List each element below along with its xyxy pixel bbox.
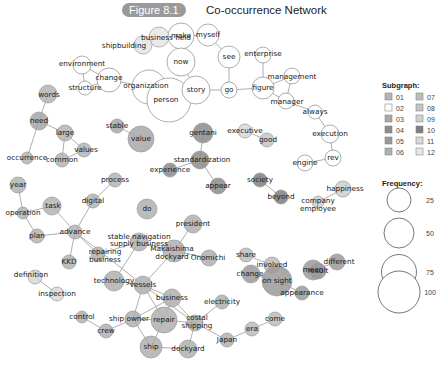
subgraph-label: 04	[396, 127, 404, 134]
node-label: management	[268, 72, 317, 81]
node-label: Japan	[216, 335, 237, 344]
frequency-label: 50	[426, 230, 434, 237]
subgraph-swatch-12	[416, 148, 423, 155]
subgraph-swatch-06	[385, 148, 392, 155]
node-label: year	[10, 180, 26, 189]
node-label: person	[153, 95, 178, 104]
node-label: KKD	[61, 257, 77, 266]
subgraph-label: 09	[427, 116, 435, 123]
node-label: execution	[312, 129, 348, 138]
node-label: shipping	[181, 321, 212, 330]
node-label: control	[69, 312, 94, 321]
network-labels: business fieldshipbuildingmakemyselfnows…	[5, 30, 363, 353]
node-label: value	[131, 134, 151, 143]
frequency-circle-100	[378, 271, 420, 313]
node-label: involved	[257, 260, 288, 269]
node-label: ship	[143, 342, 158, 351]
node-label: values	[74, 145, 98, 154]
subgraph-swatch-10	[416, 126, 423, 133]
node-label: repair	[153, 315, 174, 324]
node-label: society	[247, 175, 274, 184]
subgraph-swatch-02	[385, 104, 392, 111]
node-label: plan	[29, 231, 45, 240]
node-label: environment	[59, 59, 106, 68]
subgraph-legend-items: 010203040506070809101112	[385, 93, 435, 156]
node-label: digital	[82, 196, 105, 205]
subgraph-label: 05	[396, 138, 404, 145]
frequency-legend-title: Frequency:	[382, 179, 422, 188]
node-label: story	[187, 85, 206, 94]
node-label: rev	[327, 153, 339, 162]
node-label: task	[45, 201, 61, 210]
node-label: happiness	[326, 184, 363, 193]
node-label: appearance	[280, 288, 324, 297]
subgraph-swatch-01	[385, 93, 392, 100]
node-label: come	[265, 314, 286, 323]
node-label: shipbuilding	[102, 41, 146, 50]
node-label: change	[237, 269, 264, 278]
node-label: appear	[205, 181, 231, 190]
node-label: result	[308, 266, 329, 275]
node-label: always	[302, 107, 327, 116]
node-label: business	[156, 293, 188, 302]
frequency-circle-25	[387, 188, 411, 212]
subgraph-swatch-11	[416, 137, 423, 144]
node-label: president	[176, 219, 211, 228]
node-label: myself	[196, 30, 221, 39]
node-label: common	[46, 155, 78, 164]
node-label: dockyard	[155, 252, 188, 261]
node-label: need	[30, 116, 48, 125]
node-label: occurrence	[7, 153, 48, 162]
subgraph-label: 08	[427, 105, 435, 112]
node-label: experience	[150, 165, 191, 174]
subgraph-label: 10	[427, 127, 435, 134]
subgraph-label: 03	[396, 116, 404, 123]
subgraph-label: 11	[427, 138, 434, 145]
node-label: operation	[5, 208, 40, 217]
frequency-legend-items: 255075100	[378, 188, 436, 313]
node-label: era	[246, 324, 258, 333]
node-label: organization	[123, 81, 168, 90]
subgraph-swatch-04	[385, 126, 392, 133]
subgraph-label: 01	[396, 94, 404, 101]
node-label: crew	[97, 326, 114, 335]
frequency-circle-50	[384, 218, 414, 248]
node-label: process	[101, 175, 129, 184]
subgraph-label: 02	[396, 105, 404, 112]
node-label: change	[96, 73, 123, 82]
frequency-label: 100	[424, 289, 436, 296]
node-label: different	[324, 257, 355, 266]
node-label: share	[236, 250, 257, 259]
subgraph-swatch-03	[385, 115, 392, 122]
node-label: good	[259, 135, 277, 144]
node-label: go	[224, 85, 234, 94]
subgraph-label: 06	[396, 149, 404, 156]
node-label: words	[38, 90, 60, 99]
node-label: enterprise	[244, 49, 282, 58]
node-label: vessels	[130, 280, 157, 289]
node-label: business	[89, 255, 121, 264]
node-label: advance	[59, 227, 91, 236]
node-label: make	[171, 31, 192, 40]
node-label: figure	[252, 83, 274, 92]
node-label: gentani	[189, 128, 217, 137]
node-label: stable	[106, 121, 129, 130]
node-label: Onomichi	[191, 253, 226, 262]
node-label: dockyard	[171, 344, 204, 353]
node-label: see	[223, 52, 236, 61]
node-label: engine	[293, 158, 318, 167]
node-label: inspection	[38, 289, 76, 298]
node-label: beyond	[267, 192, 294, 201]
legend: Subgraph: 010203040506070809101112 Frequ…	[378, 81, 436, 313]
node-label: electricity	[204, 297, 241, 306]
frequency-label: 25	[426, 197, 434, 204]
subgraph-swatch-08	[416, 104, 423, 111]
frequency-label: 75	[426, 269, 434, 276]
node-label: employee	[300, 204, 337, 213]
subgraph-label: 07	[427, 94, 435, 101]
subgraph-swatch-05	[385, 137, 392, 144]
subgraph-label: 12	[427, 149, 435, 156]
node-label: large	[56, 128, 75, 137]
co-occurrence-network: business fieldshipbuildingmakemyselfnows…	[0, 0, 444, 365]
node-label: now	[173, 57, 188, 66]
